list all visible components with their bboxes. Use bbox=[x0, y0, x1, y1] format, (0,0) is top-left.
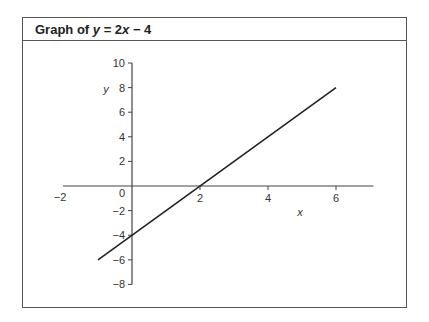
y-tick-label: −8 bbox=[112, 278, 125, 290]
y-axis-label: y bbox=[102, 83, 110, 95]
plot-area: −2246108642−2−4−6−80yx bbox=[0, 0, 429, 322]
y-tick-label: 6 bbox=[119, 106, 125, 118]
x-tick-label: 6 bbox=[333, 192, 339, 204]
axes: −2246108642−2−4−6−80yx bbox=[54, 57, 374, 290]
y-tick-label: 10 bbox=[113, 57, 125, 69]
x-tick-label: −2 bbox=[54, 191, 67, 203]
x-tick-label: 2 bbox=[197, 192, 203, 204]
y-tick-label: −2 bbox=[112, 205, 125, 217]
y-tick-label: 4 bbox=[119, 131, 125, 143]
y-tick-label: 8 bbox=[119, 82, 125, 94]
y-tick-label: −6 bbox=[112, 254, 125, 266]
data-line bbox=[98, 88, 336, 260]
x-tick-label: 4 bbox=[265, 192, 271, 204]
origin-label: 0 bbox=[119, 187, 125, 199]
y-tick-label: 2 bbox=[119, 155, 125, 167]
y-tick-label: −4 bbox=[112, 229, 125, 241]
x-axis-label: x bbox=[296, 206, 303, 218]
